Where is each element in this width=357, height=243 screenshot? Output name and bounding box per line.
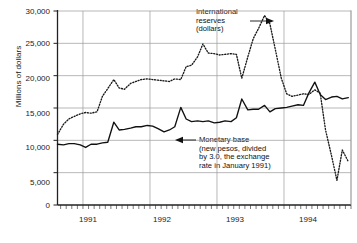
chart-figure: Millions of dollars 30,000 25,000 20,000… [0, 0, 357, 243]
gridlines [58, 11, 352, 205]
data-series-layer [58, 16, 349, 181]
series-line-monetary-base [58, 82, 349, 147]
plot-area [0, 0, 357, 243]
arrow-head-base [175, 137, 183, 143]
annotation-arrows [175, 18, 274, 143]
series-line-international-reserves [58, 16, 349, 181]
